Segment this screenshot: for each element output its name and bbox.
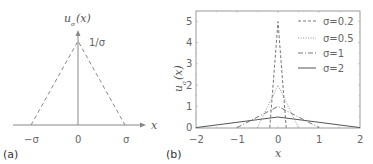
panel-b-ytick-4: 4: [186, 37, 192, 48]
panel-b-ytick-3: 3: [186, 58, 192, 69]
legend-label-sigma-2: σ=2: [323, 63, 344, 74]
panel-a-peak-label: 1/σ: [89, 37, 106, 48]
panel-b-ytick-0: 0: [186, 122, 192, 133]
panel-b-xlabel: x: [275, 147, 282, 160]
panel-a: u σ (x) 1/σ x −σ 0 σ (a): [3, 12, 158, 161]
panel-a-xtick-zero: 0: [75, 134, 81, 145]
panel-b: 0 1 2 3 4 5 −2 −1 0 1 2 x u σ (x) σ=0.2 …: [166, 11, 363, 161]
legend-label-sigma-1: σ=1: [323, 48, 344, 59]
panel-b-xtick-1: 1: [316, 134, 322, 145]
panel-a-xtick-sigma: σ: [123, 134, 130, 145]
panel-a-label: (a): [3, 148, 18, 161]
panel-b-label: (b): [166, 148, 182, 161]
panel-b-ytick-5: 5: [186, 16, 192, 27]
panel-a-xlabel: x: [151, 119, 158, 132]
panel-a-x-arrow-icon: [140, 123, 146, 128]
panel-b-xtick-neg1: −1: [230, 134, 245, 145]
panel-a-xtick-neg-sigma: −σ: [24, 134, 39, 145]
panel-b-curve-sigma-0.5: [258, 85, 299, 127]
legend-label-sigma-0.2: σ=0.2: [323, 16, 354, 27]
panel-a-ylabel-arg: (x): [76, 12, 91, 25]
panel-b-curve-sigma-0.2: [270, 22, 286, 128]
panel-b-ylabel: u σ (x): [172, 65, 187, 92]
panel-b-ytick-1: 1: [186, 101, 192, 112]
legend-label-sigma-0.5: σ=0.5: [323, 33, 354, 44]
panel-b-xtick-neg2: −2: [189, 134, 204, 145]
panel-b-legend: σ=0.2 σ=0.5 σ=1 σ=2: [298, 16, 354, 74]
panel-b-xtick-2: 2: [357, 134, 363, 145]
panel-a-y-arrow-icon: [76, 30, 81, 36]
panel-b-ylabel-arg: (x): [172, 65, 185, 80]
panel-b-xtick-0: 0: [275, 134, 281, 145]
figure: u σ (x) 1/σ x −σ 0 σ (a) 0 1 2 3 4: [0, 0, 373, 164]
